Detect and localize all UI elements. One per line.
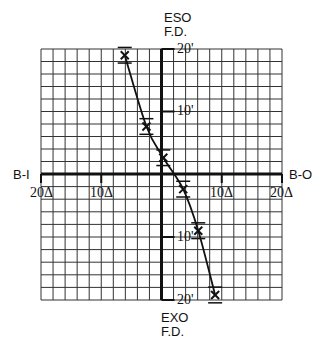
fixation-disparity-chart — [0, 0, 323, 350]
x-tick-left-20: 20Δ — [30, 186, 53, 200]
data-point-x-marker — [156, 150, 170, 166]
b-o-label: B-O — [289, 168, 312, 182]
y-tick-top-10: 10' — [177, 104, 194, 118]
x-tick-left-10: 10Δ — [90, 186, 113, 200]
y-tick-top-20: 20' — [177, 42, 194, 56]
eso-fd-label: F.D. — [164, 25, 187, 39]
b-i-label: B-I — [13, 168, 30, 182]
y-tick-bottom-10: 10' — [177, 230, 194, 244]
data-point-x-marker — [118, 47, 132, 63]
x-tick-right-10: 10Δ — [210, 186, 233, 200]
eso-label: ESO — [164, 11, 191, 25]
data-point-x-marker — [176, 181, 190, 197]
y-tick-bottom-20: 20' — [177, 293, 194, 307]
data-point-x-marker — [139, 119, 153, 135]
exo-label: EXO — [161, 311, 188, 325]
x-tick-right-20: 20Δ — [270, 186, 293, 200]
exo-fd-label: F.D. — [161, 325, 184, 339]
